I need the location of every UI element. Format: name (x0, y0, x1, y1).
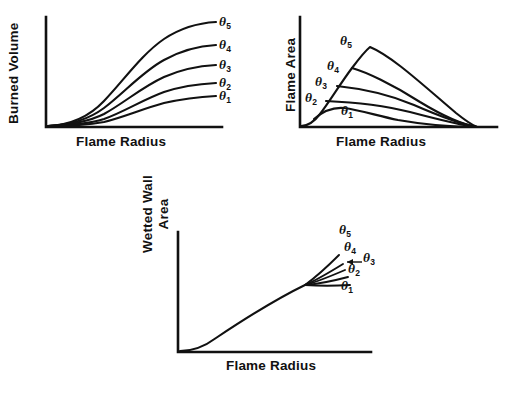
panel2-y-axis-title: Flame Area (283, 38, 298, 112)
panel3-x-axis-title: Flame Radius (226, 358, 316, 373)
panel1-x-axis-title: Flame Radius (76, 134, 166, 149)
panel2-label-theta2: θ2 (305, 90, 317, 106)
panel1-curve-theta2 (48, 83, 216, 126)
panel1-label-theta3: θ3 (219, 57, 231, 73)
panel3-y-axis-title-line2: Area (156, 174, 172, 254)
panel1-curve-theta5 (48, 22, 216, 126)
panel2-label-theta4: θ4 (327, 58, 339, 74)
figure-vector-layer (0, 0, 520, 393)
panel-burned-volume (46, 17, 222, 127)
panel3-y-axis-title: Wetted Wall Area (140, 174, 171, 254)
panel1-axes (46, 17, 222, 127)
figure-canvas: Burned Volume Flame Radius θ5 θ4 θ3 θ2 θ… (0, 0, 520, 393)
panel3-label-theta4: θ4 (344, 239, 356, 255)
panel1-label-theta5: θ5 (219, 14, 231, 30)
panel2-label-theta1: θ1 (341, 103, 353, 119)
panel3-label-theta5: θ5 (339, 222, 351, 238)
panel2-label-theta3: θ3 (315, 74, 327, 90)
panel1-y-axis-title: Burned Volume (6, 23, 21, 124)
panel3-trunk (180, 285, 305, 351)
panel1-label-theta4: θ4 (219, 37, 231, 53)
panel1-label-theta1: θ1 (219, 88, 231, 104)
panel2-label-theta5: θ5 (340, 33, 352, 49)
panel3-y-axis-title-line1: Wetted Wall (140, 174, 156, 254)
panel1-curve-theta3 (48, 65, 216, 126)
panel3-label-theta3: θ3 (363, 250, 375, 266)
panel2-x-axis-title: Flame Radius (336, 134, 426, 149)
panel3-label-theta1: θ1 (341, 278, 353, 294)
panel3-label-theta2: θ2 (348, 261, 360, 277)
